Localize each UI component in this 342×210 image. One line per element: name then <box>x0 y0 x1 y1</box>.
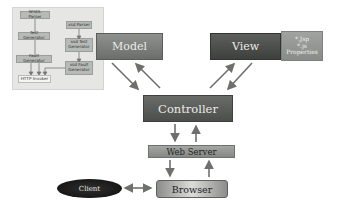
controller-to-model-arrow <box>136 64 160 88</box>
model-to-controller-arrow <box>112 63 138 89</box>
controller-to-view-arrow <box>210 64 234 88</box>
diagram-arrows <box>0 0 342 210</box>
